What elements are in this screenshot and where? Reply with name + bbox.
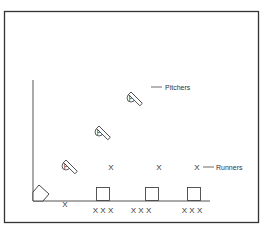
base-1 xyxy=(97,188,110,201)
base-group-3: X X X xyxy=(182,206,203,215)
pitchers-label: Pitchers xyxy=(165,84,191,91)
runner-marker: X xyxy=(156,163,162,172)
runner-marker: X xyxy=(108,163,114,172)
base-3 xyxy=(188,188,201,201)
baseball-drill-diagram: P P P Pitchers X X X Runners X X X X X X… xyxy=(0,0,261,225)
runners-label: Runners xyxy=(216,164,243,171)
base-group-1: X X X xyxy=(93,206,114,215)
runner-marker: X xyxy=(194,163,200,172)
catcher-marker: X xyxy=(62,200,68,209)
base-group-2: X X X xyxy=(131,206,152,215)
base-2 xyxy=(146,188,159,201)
